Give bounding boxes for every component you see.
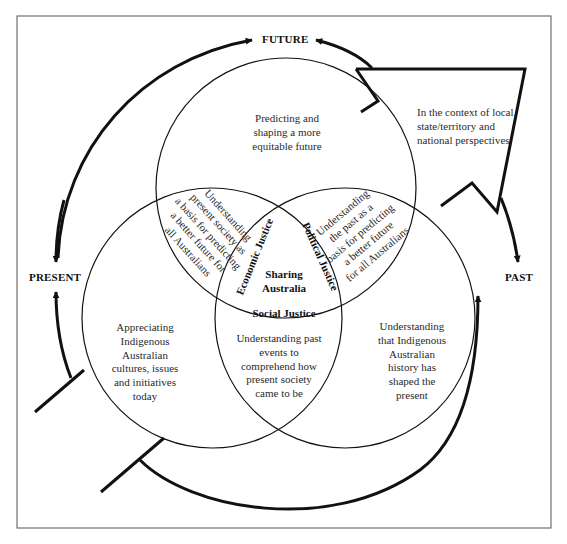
context-line: In the context of local, bbox=[417, 106, 527, 120]
bracket-left-lower bbox=[101, 438, 164, 492]
diagram-canvas: FUTURE PRESENT PAST In the context of lo… bbox=[0, 0, 567, 544]
text-line: comprehend how bbox=[224, 360, 334, 374]
label-social-justice: Social Justice bbox=[234, 307, 334, 321]
text-line: Predicting and bbox=[232, 112, 342, 126]
text-line: shaping a more bbox=[232, 126, 342, 140]
text-line: shaped the bbox=[362, 375, 462, 389]
label-past: PAST bbox=[505, 271, 533, 283]
text-line: and initiatives bbox=[95, 376, 195, 390]
past-circle-text: Understanding that Indigenous Australian… bbox=[362, 320, 462, 403]
text-line: Indigenous bbox=[95, 335, 195, 349]
text-line: came to be bbox=[224, 387, 334, 401]
text-line: that Indigenous bbox=[362, 334, 462, 348]
text-line: events to bbox=[224, 346, 334, 360]
overlap-bottom-text: Understanding past events to comprehend … bbox=[224, 332, 334, 401]
text-line: present society bbox=[224, 373, 334, 387]
center-title: Sharing Australia bbox=[244, 268, 324, 296]
text-line: today bbox=[95, 390, 195, 404]
text-line: equitable future bbox=[232, 140, 342, 154]
text-line: Australian bbox=[95, 349, 195, 363]
text-line: Understanding bbox=[362, 320, 462, 334]
text-line: Australian bbox=[362, 348, 462, 362]
text-line: Understanding past bbox=[224, 332, 334, 346]
arrow-into-present-bottom bbox=[56, 292, 71, 378]
text-line: cultures, issues bbox=[95, 362, 195, 376]
text-line: present bbox=[362, 389, 462, 403]
label-present: PRESENT bbox=[29, 271, 81, 283]
bracket-left-upper bbox=[35, 370, 84, 412]
arrow-context-to-past bbox=[501, 198, 518, 262]
context-line: national perspectives bbox=[417, 134, 527, 148]
label-future: FUTURE bbox=[262, 33, 308, 45]
text-line: Australia bbox=[244, 282, 324, 296]
future-circle-text: Predicting and shaping a more equitable … bbox=[232, 112, 342, 153]
context-note: In the context of local, state/territory… bbox=[417, 106, 527, 147]
text-line: history has bbox=[362, 361, 462, 375]
text-line: Appreciating bbox=[95, 321, 195, 335]
context-line: state/territory and bbox=[417, 120, 527, 134]
present-circle-text: Appreciating Indigenous Australian cultu… bbox=[95, 321, 195, 404]
